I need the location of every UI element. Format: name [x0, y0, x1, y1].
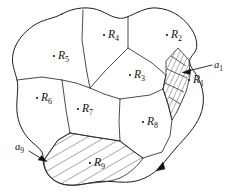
region-dot-R3 [129, 74, 131, 76]
region-dot-R5 [53, 55, 55, 57]
region-dot-R4 [103, 34, 105, 36]
region-dot-R8 [142, 121, 144, 123]
region-dot-R2 [166, 34, 168, 36]
region-dot-R1 [188, 79, 190, 81]
strip-label-a9: a9 [15, 141, 24, 155]
region-dot-R7 [77, 108, 79, 110]
region-partition-diagram: R1 R2 R3 R4 [0, 0, 243, 193]
strip-label-a1: a1 [214, 59, 223, 73]
figure-container: R1 R2 R3 R4 [0, 0, 243, 193]
region-dot-R9 [89, 162, 91, 164]
region-dot-R6 [36, 97, 38, 99]
